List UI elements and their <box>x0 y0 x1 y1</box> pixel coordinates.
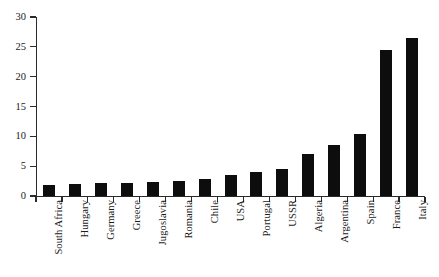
bar <box>95 183 107 196</box>
y-tick-label-10: 10 <box>2 130 26 141</box>
x-axis-label-text: Hungary <box>79 200 90 237</box>
x-axis-label: Romania <box>183 200 194 239</box>
bar <box>121 183 133 196</box>
x-axis-line <box>36 196 425 197</box>
x-axis-label: Algeria <box>313 200 324 232</box>
x-axis-label-text: Spain <box>365 200 376 224</box>
x-axis-label-text: Algeria <box>313 200 324 232</box>
bar <box>302 154 314 196</box>
x-axis-label-text: USA <box>235 200 246 221</box>
x-axis-label: Hungary <box>79 200 90 237</box>
bar <box>199 179 211 196</box>
y-tick-label-30: 30 <box>2 11 26 22</box>
x-axis-label: USA <box>235 200 246 221</box>
x-axis-label: Greece <box>131 200 142 230</box>
x-axis-label: Germany <box>105 200 116 240</box>
y-tick-label-0: 0 <box>2 190 26 201</box>
bar-chart: 051015202530 South AfricaHungaryGermanyG… <box>0 0 439 277</box>
x-axis-label: Argentina <box>339 200 350 243</box>
x-axis-label-text: Portugal <box>261 200 272 236</box>
x-axis-label-text: USSR <box>287 200 298 227</box>
bar <box>147 182 159 196</box>
x-axis-label: Chile <box>209 200 220 223</box>
x-axis-label: Portugal <box>261 200 272 236</box>
x-axis-label-text: Greece <box>131 200 142 230</box>
y-tick-label-20: 20 <box>2 71 26 82</box>
bar <box>225 175 237 196</box>
x-axis-label: USSR <box>287 200 298 227</box>
y-tick-label-25: 25 <box>2 41 26 52</box>
x-axis-label-text: Argentina <box>339 200 350 243</box>
y-tick-label-15: 15 <box>2 101 26 112</box>
x-axis-label: Italy <box>417 200 428 220</box>
x-axis-label: Spain <box>365 200 376 224</box>
x-axis-label: France <box>391 200 402 229</box>
x-axis-label-text: Chile <box>209 200 220 223</box>
bars-group <box>36 17 425 196</box>
x-axis-label-text: South Africa <box>53 200 64 255</box>
x-axis-label-text: Italy <box>417 200 428 220</box>
x-axis-labels: South AfricaHungaryGermanyGreeceJugoslav… <box>36 200 425 277</box>
bar <box>354 134 366 196</box>
bar <box>406 38 418 196</box>
bar <box>328 145 340 196</box>
bar <box>276 169 288 196</box>
bar <box>250 172 262 196</box>
bar <box>69 184 81 196</box>
x-axis-label-text: Germany <box>105 200 116 240</box>
x-axis-label: South Africa <box>53 200 64 255</box>
y-tick-label-5: 5 <box>2 160 26 171</box>
x-axis-label: Jugoslavia <box>157 200 168 245</box>
x-axis-label-text: Romania <box>183 200 194 239</box>
x-axis-label-text: France <box>391 200 402 229</box>
bar <box>43 185 55 196</box>
bar <box>380 50 392 196</box>
bar <box>173 181 185 196</box>
x-axis-label-text: Jugoslavia <box>157 200 168 245</box>
